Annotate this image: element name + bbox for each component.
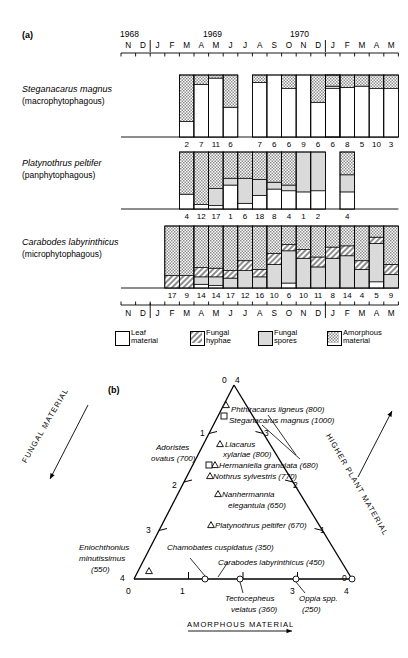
platynothrus-segment-fungal-spores xyxy=(238,178,253,203)
bottom-month-3: F xyxy=(170,309,175,318)
ternary-bottom-tick-1: 1 xyxy=(180,586,185,596)
carabodes-segment-fungal-hyphae xyxy=(282,245,297,251)
carabodes-count: 17 xyxy=(168,291,177,300)
legend-swatch-hyphae xyxy=(190,331,205,346)
carabodes-segment-amorphous-material xyxy=(340,226,355,246)
platynothrus-count: 4 xyxy=(184,212,189,221)
platynothrus-segment-leaf-material xyxy=(340,192,355,209)
bottom-month-16: M xyxy=(358,309,365,318)
carabodes-segment-fungal-spores xyxy=(369,243,384,281)
marker-platynothrus-peltifer xyxy=(208,522,215,528)
steganacarus-count: 6 xyxy=(272,140,277,149)
platynothrus-count: 4 xyxy=(345,212,350,221)
legend-label-line2: material xyxy=(343,337,382,345)
platynothrus-segment-fungal-spores xyxy=(340,175,355,192)
ternary-label-liacarus-line1: Liacarus xyxy=(225,440,255,449)
carabodes-count: 6 xyxy=(287,291,292,300)
marker-carabodes-labyrinthicus xyxy=(293,576,299,582)
bottom-month-8: J xyxy=(243,309,247,318)
ternary-label-nanhermannia-line1: Nanhermannia xyxy=(222,490,274,499)
carabodes-count: 17 xyxy=(226,291,235,300)
bottom-month-18: M xyxy=(388,309,395,318)
steganacarus-count: 8 xyxy=(345,140,350,149)
carabodes-segment-amorphous-material xyxy=(238,226,253,261)
ternary-label-liacarus-line2: xylariae (800) xyxy=(223,450,271,459)
platynothrus-count: 1 xyxy=(228,212,233,221)
legend-label-leaf: Leafmaterial xyxy=(131,329,158,346)
ternary-label-chamobates: Chamobates cuspidatus (350) xyxy=(167,543,274,552)
carabodes-segment-fungal-hyphae xyxy=(209,268,224,277)
ternary-label-hermaniella: Hermaniella granulata (680) xyxy=(219,461,318,470)
axis-title-amorphous-material: AMORPHOUS MATERIAL xyxy=(187,620,294,629)
steganacarus-count: 6 xyxy=(228,140,233,149)
carabodes-segment-fungal-spores xyxy=(355,269,370,288)
carabodes-segment-amorphous-material xyxy=(355,226,370,261)
carabodes-segment-fungal-spores xyxy=(282,251,297,283)
platynothrus-segment-leaf-material xyxy=(296,192,311,209)
platynothrus-segment-leaf-material xyxy=(209,206,224,209)
steganacarus-segment-leaf-material xyxy=(223,107,238,137)
steganacarus-segment-amorphous-material xyxy=(223,75,238,107)
top-month-0: N xyxy=(125,41,131,50)
steganacarus-segment-leaf-material xyxy=(179,122,194,138)
carabodes-segment-amorphous-material xyxy=(194,226,209,268)
leader-chamobates xyxy=(190,558,205,576)
ternary-label-oppia-line1: Oppia spp. xyxy=(299,594,338,603)
ternary-right-corner-0: 0 xyxy=(342,573,347,583)
steganacarus-segment-leaf-material xyxy=(209,78,224,137)
arrow-amorphous-material-head xyxy=(286,629,292,634)
bottom-month-9: A xyxy=(257,309,263,318)
ternary-label-phthiracarus: Phthiracarus ligneus (800) xyxy=(231,405,324,414)
carabodes-count: 4 xyxy=(360,291,365,300)
carabodes-segment-fungal-spores xyxy=(238,271,253,288)
steganacarus-count: 5 xyxy=(360,140,365,149)
top-month-15: F xyxy=(345,41,350,50)
platynothrus-segment-amorphous-material xyxy=(238,152,253,178)
ternary-label-adoristes-line1: Adoristes xyxy=(156,443,189,452)
carabodes-segment-fungal-spores xyxy=(194,277,209,284)
legend-swatch-amorphous xyxy=(327,331,342,346)
marker-hermaniella-granulata-square xyxy=(206,462,212,468)
steganacarus-count: 7 xyxy=(257,140,262,149)
ternary-label-platynothrus: Platynothrus peltifer (670) xyxy=(215,521,307,530)
platynothrus-segment-leaf-material xyxy=(223,185,238,209)
steganacarus-count: 6 xyxy=(316,140,321,149)
platynothrus-segment-leaf-material xyxy=(311,191,326,209)
ternary-bottom-tick-0: 0 xyxy=(126,586,131,596)
marker-eniochthonius-minutissimus xyxy=(146,568,153,574)
platynothrus-count: 6 xyxy=(243,212,248,221)
legend-swatch-leaf xyxy=(115,331,130,346)
carabodes-segment-leaf-material xyxy=(369,282,384,288)
top-month-8: J xyxy=(243,41,247,50)
bottom-month-7: J xyxy=(228,309,232,318)
legend-label-line2: spores xyxy=(274,337,297,345)
ternary-label-tectocepheus-line2: velatus (360) xyxy=(231,605,277,614)
top-month-6: M xyxy=(212,41,219,50)
marker-liacarus-xylariae xyxy=(217,441,224,447)
platynothrus-segment-leaf-material xyxy=(282,191,297,209)
carabodes-segment-amorphous-material xyxy=(311,226,326,257)
carabodes-count: 14 xyxy=(211,291,220,300)
carabodes-segment-fungal-hyphae xyxy=(311,257,326,267)
top-month-9: A xyxy=(257,41,263,50)
platynothrus-segment-amorphous-material xyxy=(209,152,224,188)
steganacarus-segment-amorphous-material xyxy=(369,75,384,89)
carabodes-segment-leaf-material xyxy=(194,284,209,288)
carabodes-segment-amorphous-material xyxy=(209,226,224,268)
bottom-month-13: D xyxy=(315,309,321,318)
platynothrus-segment-leaf-material xyxy=(252,195,267,209)
carabodes-segment-leaf-material xyxy=(282,283,297,288)
carabodes-segment-fungal-hyphae xyxy=(369,237,384,243)
carabodes-segment-amorphous-material xyxy=(267,226,282,253)
steganacarus-segment-leaf-material xyxy=(282,89,297,137)
platynothrus-count: 12 xyxy=(197,212,206,221)
carabodes-segment-amorphous-material xyxy=(325,226,340,247)
legend-label-hyphae: Fungalhyphae xyxy=(206,329,231,346)
top-month-16: M xyxy=(358,41,365,50)
platynothrus-segment-fungal-spores xyxy=(311,152,326,191)
steganacarus-segment-leaf-material xyxy=(311,102,326,137)
steganacarus-segment-fungal-spores xyxy=(325,86,340,88)
marker-steganacarus-magnus xyxy=(221,413,227,419)
panel-a-canvas: NDJFMAMJJASONDJFMAM271167669668510341217… xyxy=(0,0,408,360)
steganacarus-segment-leaf-material xyxy=(355,86,370,137)
